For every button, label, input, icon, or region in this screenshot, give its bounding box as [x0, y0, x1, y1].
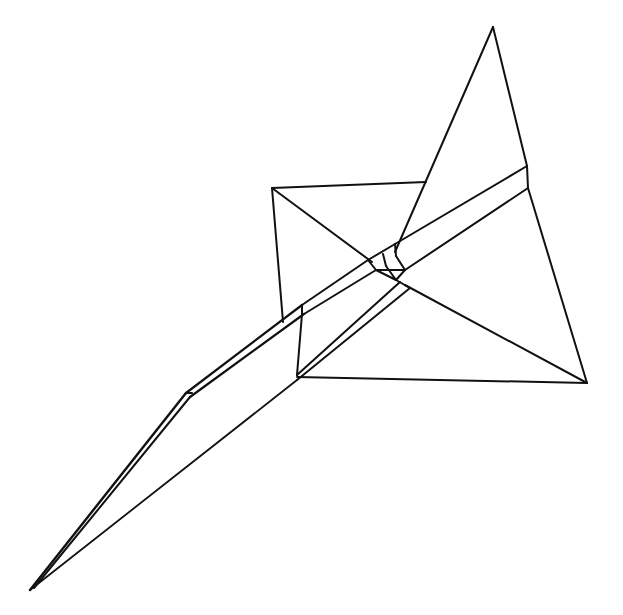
wing-trailing-right	[528, 188, 587, 383]
hub-8	[396, 270, 405, 280]
hub-1	[368, 244, 395, 260]
nose-upper-1	[186, 305, 302, 393]
drawing-lines	[30, 27, 587, 590]
fuselage-lower-bottom	[297, 288, 410, 380]
aircraft-wireframe-drawing	[0, 0, 623, 615]
nose-spike-1	[30, 393, 186, 590]
hub-5	[395, 244, 396, 256]
hub-4	[383, 254, 386, 266]
body-upper-2	[304, 270, 376, 314]
box-diagonal	[272, 188, 372, 262]
nose-lower-long	[30, 380, 297, 590]
tail-end-edge	[527, 166, 528, 188]
box-top-edge	[272, 182, 426, 188]
fuselage-lower-top	[297, 282, 400, 375]
body-upper-1	[302, 260, 368, 305]
box-left-edge	[272, 188, 283, 322]
fuselage-upper-bottom	[405, 188, 528, 270]
nose-spike-2	[34, 397, 190, 588]
hub-6	[396, 256, 405, 270]
tail-fin-left-edge	[395, 27, 493, 252]
wing-diagonal-lower	[405, 285, 587, 383]
nose-upper-2	[190, 314, 304, 397]
tail-fin-right-edge	[493, 27, 527, 166]
nose-vertical	[297, 314, 302, 375]
wing-bottom-edge	[297, 377, 587, 383]
